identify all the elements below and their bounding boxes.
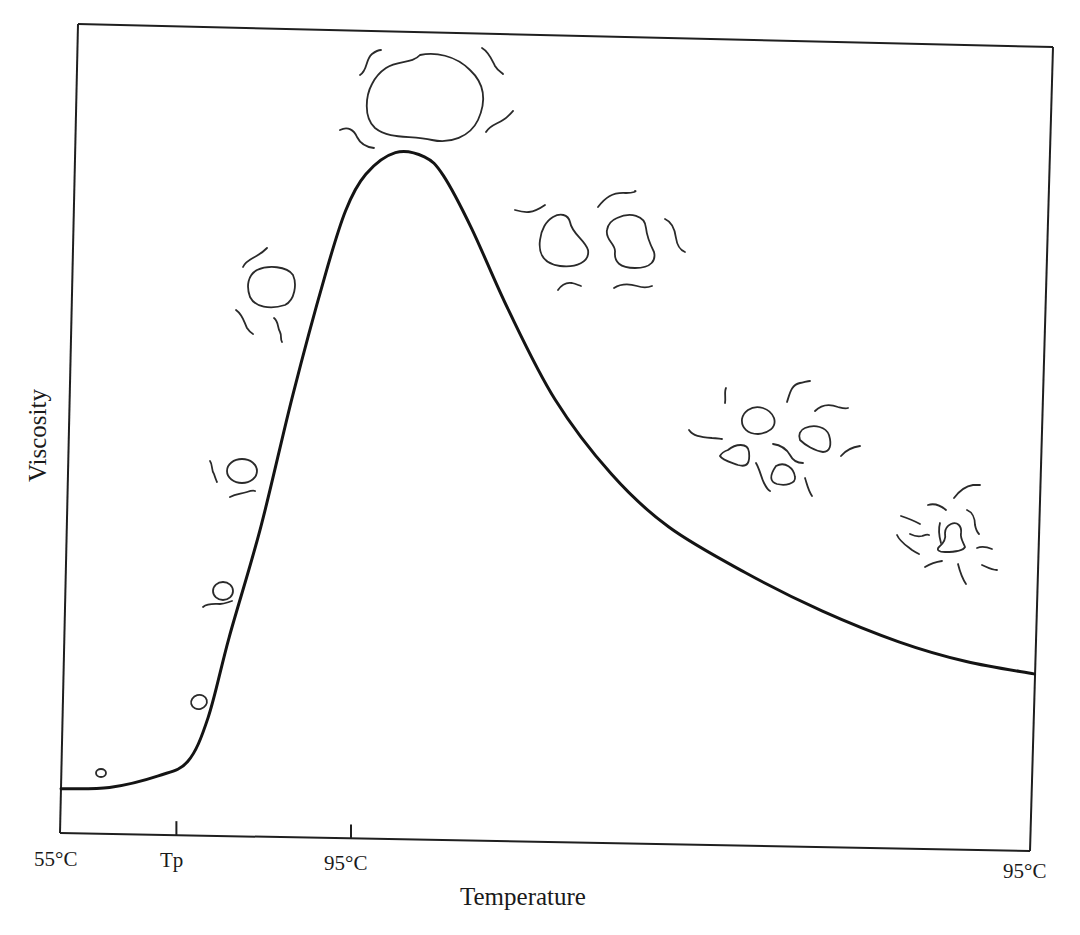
granule-sketch-deforming xyxy=(515,191,685,290)
x-axis xyxy=(60,833,1030,851)
granule-sketch-slightly-swollen xyxy=(189,693,208,711)
y-axis-title: Viscosity xyxy=(24,389,51,482)
frame-top xyxy=(78,24,1053,47)
chart: 55°C Tp 95°C 95°C Temperature Viscosity xyxy=(0,0,1080,935)
x-tick-label-95c-end: 95°C xyxy=(1003,859,1046,883)
granule-sketch-highly-swollen xyxy=(236,248,295,342)
granule-sketch-disintegrated xyxy=(897,485,997,584)
granule-sketch-fragmenting xyxy=(689,381,860,496)
x-axis-title: Temperature xyxy=(460,883,586,910)
granule-sketch-swelling xyxy=(203,582,233,607)
x-tick-label-55c: 55°C xyxy=(34,847,77,871)
y-axis xyxy=(60,24,78,833)
x-tick-label-95c: 95°C xyxy=(324,851,367,875)
granule-sketch-native xyxy=(96,769,106,777)
frame-right xyxy=(1030,47,1053,851)
granule-sketch-swelling-amylose xyxy=(210,459,257,497)
x-tick-label-tp: Tp xyxy=(160,848,183,872)
granule-sketch-peak xyxy=(340,48,513,148)
viscosity-curve xyxy=(61,151,1034,788)
